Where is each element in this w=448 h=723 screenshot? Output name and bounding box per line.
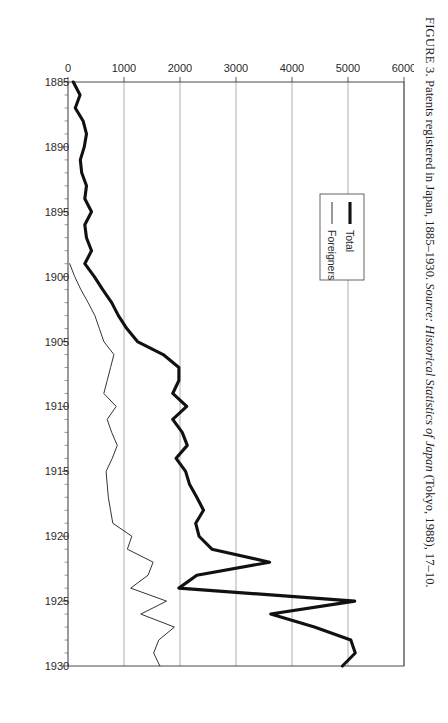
line-chart: 0100020003000400050006000 18851890189519… xyxy=(34,42,414,682)
x-tick-label: 1925 xyxy=(45,595,69,607)
gridlines-group xyxy=(124,82,404,666)
legend-label-foreigners: Foreigners xyxy=(326,230,338,280)
y-tick-label: 0 xyxy=(65,62,71,74)
chart-stage: 0100020003000400050006000 18851890189519… xyxy=(34,42,414,682)
figure-number: FIGURE 3. xyxy=(423,17,437,77)
figure-caption: FIGURE 3. Patents registered in Japan, 1… xyxy=(422,17,437,707)
y-tick-label: 6000 xyxy=(392,62,414,74)
y-tick-label: 1000 xyxy=(112,62,136,74)
figure-title-text: Patents registered in Japan, 1885–1930. xyxy=(423,80,437,280)
x-axis-labels: 1885189018951900190519101915192019251930 xyxy=(45,76,69,672)
x-tick-label: 1905 xyxy=(45,335,69,347)
source-citation: (Tokyo, 1988), 17–10. xyxy=(423,474,437,587)
x-tick-label: 1910 xyxy=(45,400,69,412)
x-tick-label: 1890 xyxy=(45,140,69,152)
y-tick-label: 3000 xyxy=(224,62,248,74)
y-axis-labels: 0100020003000400050006000 xyxy=(65,62,414,74)
x-tick-label: 1900 xyxy=(45,270,69,282)
figure-caption-wrapper: FIGURE 3. Patents registered in Japan, 1… xyxy=(414,0,444,723)
series-line-total xyxy=(73,82,355,666)
y-tick-label: 5000 xyxy=(336,62,360,74)
x-tick-label: 1920 xyxy=(45,530,69,542)
chart-legend: TotalForeigners xyxy=(320,194,364,280)
figure-container: 0100020003000400050006000 18851890189519… xyxy=(0,0,448,723)
x-tick-label: 1915 xyxy=(45,465,69,477)
y-tick-label: 2000 xyxy=(168,62,192,74)
y-tick-label: 4000 xyxy=(280,62,304,74)
data-series-group xyxy=(70,82,356,666)
x-tick-label: 1895 xyxy=(45,205,69,217)
x-tick-label: 1885 xyxy=(45,76,69,88)
tick-marks-group xyxy=(62,77,404,666)
legend-label-total: Total xyxy=(344,230,356,252)
x-tick-label: 1930 xyxy=(45,660,69,672)
source-prefix: Source: xyxy=(423,283,437,322)
source-title: Historical Statistics of Japan xyxy=(423,325,437,472)
